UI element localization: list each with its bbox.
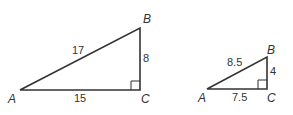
large-vertex-b: B xyxy=(143,13,151,25)
small-side-ab: 8.5 xyxy=(227,57,242,68)
small-vertex-b: B xyxy=(267,44,275,56)
small-vertex-a: A xyxy=(198,92,206,104)
large-triangle xyxy=(20,28,140,90)
large-side-bc: 8 xyxy=(143,53,149,64)
small-vertex-c: C xyxy=(267,92,276,104)
similar-triangles-diagram: A B C 17 8 15 A B C 8.5 4 7.5 xyxy=(0,0,293,115)
large-vertex-c: C xyxy=(141,93,150,105)
large-side-ab: 17 xyxy=(72,45,84,56)
small-side-bc: 4 xyxy=(270,66,276,77)
small-side-ac: 7.5 xyxy=(232,92,247,103)
large-vertex-a: A xyxy=(8,93,16,105)
large-side-ac: 15 xyxy=(74,93,86,104)
